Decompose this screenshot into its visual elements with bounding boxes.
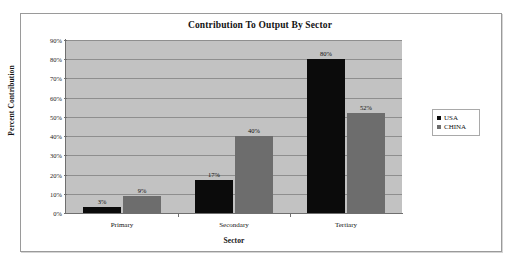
- chart-title: Contribution To Output By Sector: [0, 20, 520, 30]
- y-axis-line: [65, 39, 66, 214]
- plot-area: [66, 40, 402, 213]
- bar-usa-tertiary: [307, 59, 345, 213]
- y-axis-tick-mark: [64, 213, 67, 214]
- bar-value-label: 40%: [248, 127, 260, 134]
- gridline: [66, 40, 402, 41]
- legend-swatch-usa: [437, 116, 441, 120]
- y-axis-tick-mark: [64, 136, 67, 137]
- legend-item-china[interactable]: CHINA: [437, 123, 476, 131]
- bar-value-label: 3%: [98, 198, 107, 205]
- y-axis-tick-mark: [64, 40, 67, 41]
- y-axis-tick-mark: [64, 155, 67, 156]
- gridline: [66, 78, 402, 79]
- legend: USA CHINA: [432, 109, 480, 136]
- y-axis-tick-label: 80%: [34, 56, 62, 63]
- x-axis-title: Sector: [66, 236, 402, 245]
- bar-value-label: 52%: [360, 104, 372, 111]
- y-axis-title: Percent Contribution: [7, 36, 16, 166]
- legend-item-usa[interactable]: USA: [437, 114, 476, 122]
- y-axis-tick-label: 60%: [34, 94, 62, 101]
- y-axis-tick-mark: [64, 175, 67, 176]
- y-axis-tick-mark: [64, 117, 67, 118]
- y-axis-tick-label: 10%: [34, 190, 62, 197]
- y-axis-tick-label: 90%: [34, 37, 62, 44]
- x-axis-tick-mark: [290, 213, 291, 217]
- bar-value-label: 80%: [320, 50, 332, 57]
- y-axis-tick-label: 40%: [34, 133, 62, 140]
- x-axis-line: [65, 213, 403, 214]
- bar-china-primary: [123, 196, 161, 213]
- y-axis-tick-label: 20%: [34, 171, 62, 178]
- bar-value-label: 9%: [138, 187, 147, 194]
- gridline: [66, 59, 402, 60]
- x-axis-tick-label: Secondary: [219, 221, 249, 229]
- y-axis-tick-label: 0%: [34, 210, 62, 217]
- bar-china-tertiary: [347, 113, 385, 213]
- legend-label-usa: USA: [444, 114, 458, 122]
- bar-china-secondary: [235, 136, 273, 213]
- chart-figure: Contribution To Output By Sector Percent…: [0, 0, 520, 266]
- bar-usa-secondary: [195, 180, 233, 213]
- y-axis-tick-mark: [64, 194, 67, 195]
- y-axis-tick-label: 50%: [34, 113, 62, 120]
- legend-swatch-china: [437, 125, 441, 129]
- y-axis-tick-mark: [64, 59, 67, 60]
- x-axis-tick-mark: [178, 213, 179, 217]
- y-axis-tick-label: 70%: [34, 75, 62, 82]
- gridline: [66, 98, 402, 99]
- legend-label-china: CHINA: [444, 123, 466, 131]
- y-axis-tick-label: 30%: [34, 152, 62, 159]
- x-axis-tick-label: Primary: [111, 221, 134, 229]
- x-axis-tick-label: Tertiary: [335, 221, 357, 229]
- y-axis-tick-mark: [64, 98, 67, 99]
- y-axis-tick-mark: [64, 78, 67, 79]
- bar-value-label: 17%: [208, 171, 220, 178]
- y-axis-ticks: 0%10%20%30%40%50%60%70%80%90%: [32, 40, 62, 213]
